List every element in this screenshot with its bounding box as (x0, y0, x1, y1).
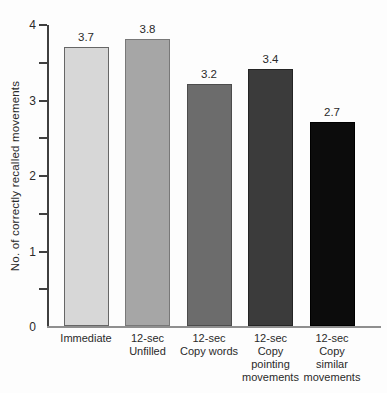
x-tick-label: 12-secCopypointingmovements (242, 332, 299, 384)
x-tick-label-line: 12-sec (242, 332, 299, 345)
y-tick-label: 1 (16, 245, 36, 259)
bar-12-sec-copy-similar-movements (310, 122, 355, 326)
y-axis-tick (39, 288, 47, 290)
x-tick-label-line: Immediate (60, 332, 111, 345)
x-tick-label: Immediate (60, 332, 111, 345)
x-tick-label-line: Copy (304, 345, 361, 358)
bar-value-label: 3.8 (140, 23, 156, 35)
bar-chart-figure: No. of correctly recalled movements 0123… (0, 0, 387, 393)
y-tick-label: 0 (16, 320, 36, 334)
y-axis-tick (39, 137, 47, 139)
x-tick-label-line: Unfilled (129, 345, 166, 358)
y-axis-line (47, 25, 49, 328)
bar-value-label: 3.2 (201, 68, 217, 80)
x-tick-label: 12-secCopysimilarmovements (304, 332, 361, 384)
x-tick-label: 12-secCopy words (180, 332, 238, 358)
x-tick-label: 12-secUnfilled (129, 332, 166, 358)
bar-immediate (64, 47, 109, 326)
x-tick-label-line: 12-sec (304, 332, 361, 345)
x-tick-label-line: movements (242, 371, 299, 384)
bar-12-sec-copy-pointing-movements (248, 69, 293, 326)
y-axis-tick (39, 100, 47, 102)
bar-value-label: 2.7 (324, 106, 340, 118)
bar-12-sec-unfilled (125, 39, 170, 326)
y-axis-tick (39, 213, 47, 215)
x-tick-label-line: movements (304, 371, 361, 384)
y-tick-label: 2 (16, 169, 36, 183)
x-tick-label-line: similar (304, 358, 361, 371)
x-tick-label-line: pointing (242, 358, 299, 371)
x-axis-line (47, 326, 381, 328)
y-axis-tick (39, 251, 47, 253)
x-tick-label-line: 12-sec (180, 332, 238, 345)
bar-value-label: 3.7 (78, 31, 94, 43)
x-tick-label-line: Copy words (180, 345, 238, 358)
x-tick-label-line: 12-sec (129, 332, 166, 345)
y-axis-tick (39, 175, 47, 177)
y-axis-tick (39, 24, 47, 26)
x-tick-label-line: Copy (242, 345, 299, 358)
bar-12-sec-copy-words (187, 84, 232, 326)
y-tick-label: 3 (16, 94, 36, 108)
y-tick-label: 4 (16, 18, 36, 32)
bar-value-label: 3.4 (263, 53, 279, 65)
y-axis-tick (39, 62, 47, 64)
